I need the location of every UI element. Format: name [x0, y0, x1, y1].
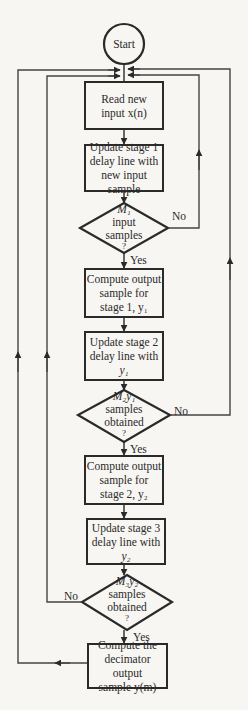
node-line: M₂y₁: [92, 390, 156, 403]
node-line: samples: [92, 403, 156, 416]
start-label: Start: [113, 37, 135, 51]
decision-2-no-label: No: [174, 405, 188, 417]
node-line: input: [94, 216, 154, 229]
start-terminal: Start: [104, 24, 144, 64]
node-line: Compute the: [89, 638, 166, 652]
node-line: Update stage 3: [92, 521, 160, 535]
process-read-input: Read new input x(n): [84, 81, 164, 130]
node-line: Update stage 1: [86, 140, 162, 154]
node-line: Compute output: [87, 459, 161, 473]
decision-3-text: M₃y₂ samples obtained ?: [95, 575, 159, 622]
decision-1-yes-label: Yes: [130, 254, 147, 266]
process-decimator-output: Compute the decimator output sample y(m): [87, 643, 168, 689]
node-line: ?: [94, 242, 154, 250]
node-line: ?: [95, 614, 159, 622]
node-line: y₂: [92, 549, 160, 563]
node-line: input x(n): [101, 106, 147, 120]
process-compute-stage2: Compute output sample for stage 2, y₂: [84, 455, 164, 505]
node-line: M₃y₂: [95, 575, 159, 588]
node-line: M₁: [94, 203, 154, 216]
node-line: delay line with: [92, 535, 160, 549]
node-line: delay line with: [86, 154, 162, 168]
node-line: Compute output: [87, 272, 161, 286]
process-update-stage3: Update stage 3 delay line with y₂: [86, 518, 166, 565]
node-line: sample for: [87, 286, 161, 300]
node-line: delay line with: [90, 349, 158, 363]
process-compute-stage1: Compute output sample for stage 1, y₁: [84, 268, 164, 318]
node-line: y₁: [90, 363, 158, 377]
decision-1-no-label: No: [172, 210, 186, 222]
node-line: stage 1, y₁: [87, 300, 161, 314]
decision-2-yes-label: Yes: [130, 443, 147, 455]
node-line: new input sample: [86, 168, 162, 196]
process-update-stage2: Update stage 2 delay line with y₁: [84, 331, 164, 381]
node-line: Read new: [101, 92, 147, 106]
node-line: ?: [92, 429, 156, 437]
decision-1-text: M₁ input samples ?: [94, 203, 154, 250]
node-line: decimator output: [89, 652, 166, 680]
node-line: stage 2, y₂: [87, 487, 161, 501]
node-line: Update stage 2: [90, 335, 158, 349]
node-line: sample y(m): [89, 680, 166, 694]
node-line: samples: [95, 588, 159, 601]
node-line: sample for: [87, 473, 161, 487]
decision-3-no-label: No: [64, 590, 78, 602]
process-update-stage1: Update stage 1 delay line with new input…: [84, 144, 164, 192]
decision-2-text: M₂y₁ samples obtained ?: [92, 390, 156, 437]
